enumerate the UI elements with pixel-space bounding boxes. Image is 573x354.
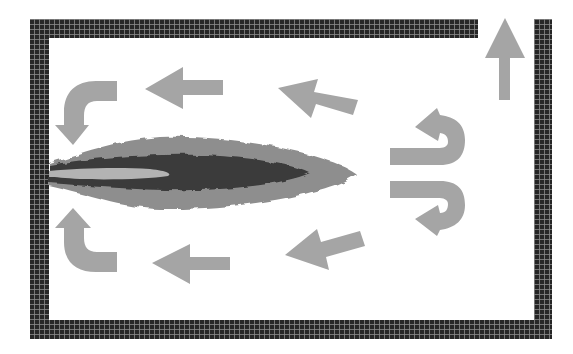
recirculation-bottom-left-curved-up: [55, 208, 117, 272]
recirculation-right-upper-uturn: [390, 108, 465, 165]
recirculation-top-diagonal: [278, 79, 358, 118]
wall-left: [30, 19, 49, 339]
recirculation-bottom-left-straight: [152, 244, 230, 284]
wall-top: [30, 19, 478, 38]
flame-jet: [49, 137, 356, 209]
flame-core: [49, 168, 169, 179]
recirculation-top-left-straight: [145, 67, 223, 109]
recirculation-bottom-diagonal: [285, 229, 365, 270]
recirculation-right-lower-uturn: [390, 181, 465, 236]
recirculation-top-left-curved-down: [55, 81, 117, 145]
exhaust-outlet-up-arrow: [485, 18, 525, 100]
wall-bottom: [30, 320, 552, 339]
wall-right: [534, 19, 552, 339]
furnace-flow-diagram: [0, 0, 573, 354]
